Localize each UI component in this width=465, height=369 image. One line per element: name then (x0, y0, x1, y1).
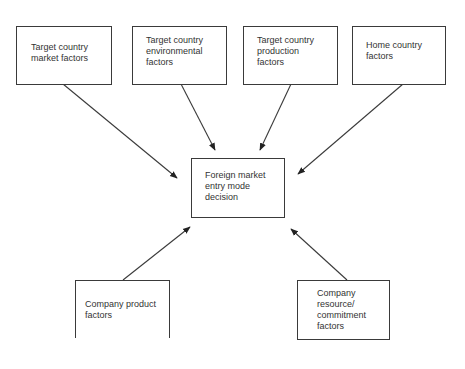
arrow-resource-to-decision (291, 229, 347, 280)
box-label: Target country production factors (257, 35, 314, 68)
box-target-production-factors: Target country production factors (243, 26, 338, 85)
box-company-resource-factors: Company resource/ commitment factors (297, 280, 390, 340)
box-label: Target country environmental factors (146, 35, 203, 68)
arrow-environmental-to-decision (181, 84, 215, 150)
box-entry-mode-decision: Foreign market entry mode decision (191, 158, 285, 218)
box-target-market-factors: Target country market factors (16, 26, 112, 85)
box-company-product-factors: Company product factors (75, 280, 170, 338)
arrow-home-to-decision (298, 84, 403, 174)
arrow-product-to-decision (123, 227, 190, 280)
box-label: Company resource/ commitment factors (317, 288, 366, 332)
box-home-country-factors: Home country factors (352, 26, 446, 85)
box-label: Home country factors (366, 40, 422, 62)
arrow-production-to-decision (260, 84, 291, 150)
box-target-environmental-factors: Target country environmental factors (132, 26, 227, 85)
box-label: Company product factors (85, 299, 156, 321)
box-label: Foreign market entry mode decision (205, 170, 266, 203)
box-label: Target country market factors (31, 42, 88, 64)
arrow-market-to-decision (63, 84, 177, 178)
